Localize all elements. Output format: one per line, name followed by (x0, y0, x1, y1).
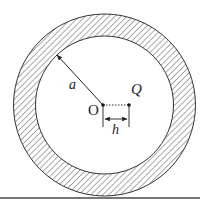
label-q: Q (131, 81, 142, 97)
bottom-rule (0, 197, 200, 199)
label-o: O (88, 102, 99, 118)
radius-arrow (57, 55, 103, 105)
diagram-canvas: a O Q h (0, 0, 207, 207)
label-a: a (69, 77, 76, 92)
label-h: h (112, 122, 119, 137)
annulus-diagram: a O Q h (0, 0, 207, 207)
